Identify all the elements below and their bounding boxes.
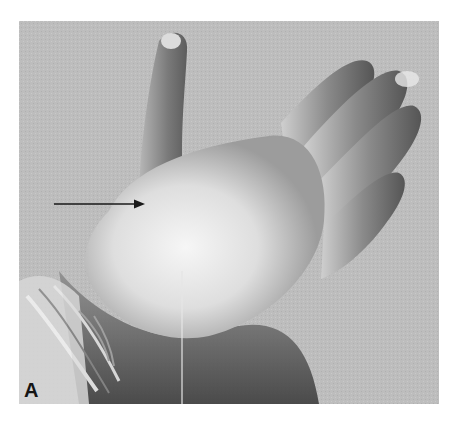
gloved-hand-photo <box>19 21 439 404</box>
panel-label: A <box>24 380 38 400</box>
figure-panel: A <box>19 21 439 404</box>
